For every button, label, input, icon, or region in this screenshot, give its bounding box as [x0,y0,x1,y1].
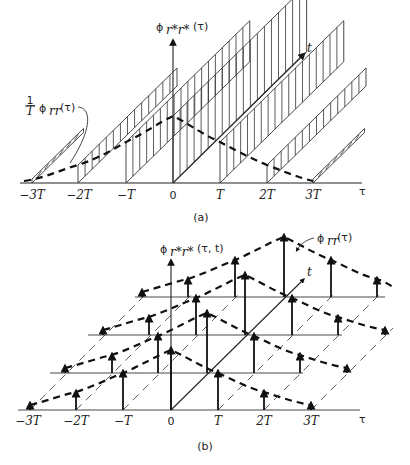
envelope-label-b: ϕ rr (τ) [317,231,352,248]
svg-text:−3T: −3T [15,414,42,428]
svg-text:ϕ: ϕ [160,243,167,256]
tau-axis-label-b: τ [359,413,366,426]
envelope-leader-a [70,107,88,163]
figure-b: ϕ rr (τ) ϕ r*r* (τ, t) t τ −3T −2T −T 0 … [15,231,395,453]
svg-text:3T: 3T [303,414,320,428]
svg-text:ϕ: ϕ [156,21,163,34]
svg-text:(τ): (τ) [60,101,75,114]
svg-text:−2T: −2T [63,414,90,428]
svg-text:−T: −T [117,188,136,202]
envelope-label-a: 1 T ϕ rr (τ) [25,94,75,118]
tau-axis-label-a: τ [359,185,366,198]
svg-text:(τ): (τ) [337,231,352,244]
spikes-row-2 [103,275,385,335]
figure-a: 1 T ϕ rr (τ) ϕ r*r* (τ) t τ −3T −2T −T 0… [19,0,366,224]
svg-text:(τ): (τ) [193,20,208,33]
spikes-row-1 [65,313,347,373]
phi-axis-label-b: ϕ r*r* (τ, t) [160,242,224,259]
svg-text:3T: 3T [305,188,322,202]
tick-labels-b: −3T −2T −T 0 T 2T 3T [15,414,320,428]
diagonal-guides-b [30,294,393,410]
t-axis-label-a: t [307,41,312,55]
svg-text:r*r*: r*r* [166,23,189,37]
svg-text:ϕ: ϕ [317,232,324,245]
svg-text:r*r*: r*r* [170,245,193,259]
svg-text:(τ, t): (τ, t) [197,242,224,255]
t-axis-b [171,280,303,410]
svg-text:−3T: −3T [19,188,46,202]
svg-text:T: T [216,188,225,202]
caption-a: (a) [193,211,208,224]
svg-text:ϕ: ϕ [39,102,46,115]
phi-axis-label-a: ϕ r*r* (τ) [156,20,208,37]
svg-text:2T: 2T [258,188,276,202]
t-axis-label-b: t [307,265,312,279]
tick-labels-a: −3T −2T −T 0 T 2T 3T [19,188,322,202]
svg-text:T: T [214,414,223,428]
caption-b: (b) [197,440,213,453]
svg-text:−2T: −2T [66,188,93,202]
svg-text:0: 0 [170,189,177,202]
svg-text:−T: −T [114,414,133,428]
svg-text:T: T [26,104,35,118]
svg-text:0: 0 [168,415,175,428]
svg-text:2T: 2T [255,414,273,428]
figure-canvas: 1 T ϕ rr (τ) ϕ r*r* (τ) t τ −3T −2T −T 0… [0,0,410,465]
